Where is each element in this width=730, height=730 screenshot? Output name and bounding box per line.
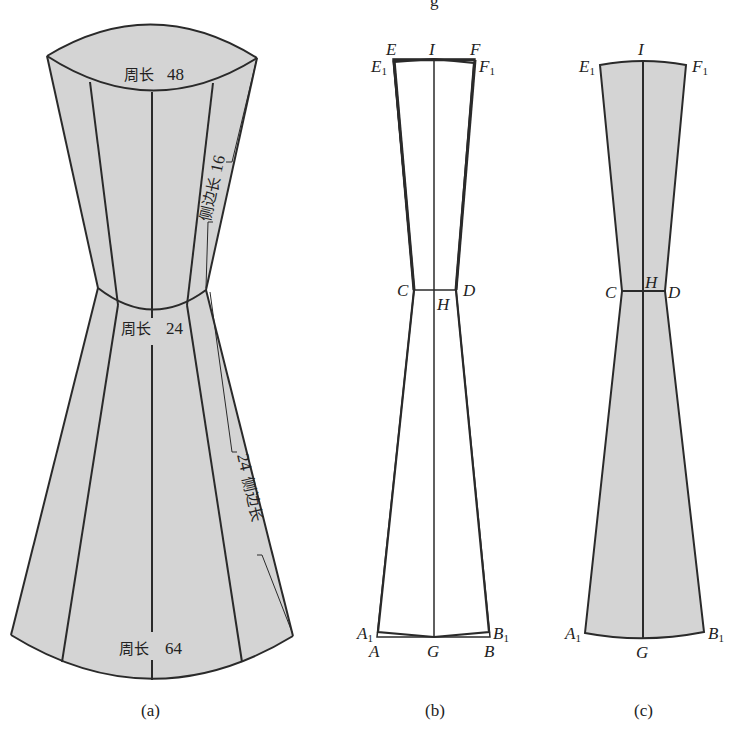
panel-b: E I F E1 F1 C D H A1 B1 A G B (b) [356,40,509,720]
point-G: G [636,643,648,662]
point-I: I [428,40,436,59]
point-B1: B1 [708,624,724,644]
point-F1: F1 [691,57,708,77]
point-B: B [484,642,495,661]
point-I: I [637,40,645,59]
waist-circumference-label: 周长 [121,320,151,338]
point-A1: A1 [356,624,373,644]
top-circumference-label: 周长 [124,66,154,84]
panel-c-caption: (c) [634,701,653,720]
top-circumference-value: 48 [167,65,184,84]
point-A1: A1 [564,624,581,644]
point-F1: F1 [478,57,495,77]
waist-circumference-value: 24 [166,319,184,338]
point-E: E [385,40,397,59]
point-E1: E1 [578,57,595,77]
point-B1: B1 [493,624,509,644]
bottom-circumference-value: 64 [165,639,183,658]
point-D: D [667,283,681,302]
panel-a: 侧边长 16 24 侧边长 周长 48 周长 24 周长 64 (a) [11,24,293,720]
panel-b-left-thick [394,60,414,290]
point-C: C [397,281,409,300]
panel-b-right-thick [456,60,475,290]
figure-canvas: g 侧边长 [0,0,730,730]
panel-c-shape [585,61,704,638]
panel-c: E1 I F1 C H D A1 B1 G (c) [564,40,724,720]
point-C: C [605,283,617,302]
bottom-circumference-label: 周长 [119,640,149,658]
point-G: G [427,642,439,661]
point-D: D [462,281,476,300]
panel-a-caption: (a) [141,701,160,720]
cut-off-text: g [430,0,439,10]
point-H: H [436,295,451,314]
point-A: A [368,642,380,661]
point-E1: E1 [370,57,387,77]
panel-b-caption: (b) [425,701,445,720]
point-H: H [644,273,659,292]
